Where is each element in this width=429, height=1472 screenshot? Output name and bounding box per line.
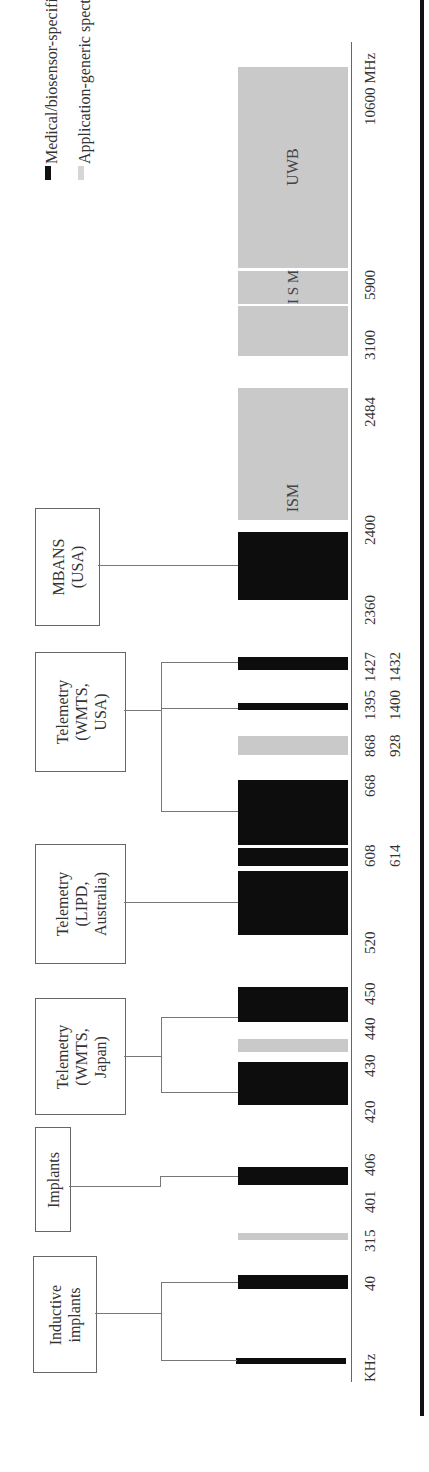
group-box-telemetry-lipd: Telemetry(LIPD,Australia) [35,844,126,964]
connector-wmts-usa-vertical [161,662,162,812]
band-401-406 [238,1167,348,1185]
connector-wmts-usa-stem [124,710,161,711]
connector-wmts-usa-1395 [161,708,238,709]
group-box-inductive-implants: Inductiveimplants [33,1256,97,1373]
connector-wmts-japan-vertical [161,1017,162,1092]
group-label-telemetry-lipd: Telemetry(LIPD,Australia) [52,872,109,937]
group-label-mbans: MBANS(USA) [49,539,87,596]
group-label-implants: Implants [44,1152,63,1208]
tick-420: 420 [362,1101,379,1124]
tick-608: 608 [362,845,379,868]
connector-mbans [98,565,238,566]
band-420-430 [238,1062,348,1105]
tick-1400: 1400 [387,690,404,720]
tick-315: 315 [362,1230,379,1253]
band-label-ism: ISM [284,484,302,512]
band-1395 [238,703,348,710]
connector-wmts-usa-608 [161,811,238,812]
group-box-implants: Implants [35,1127,71,1232]
band-ism-5900: I S M [238,271,348,304]
group-box-telemetry-wmts-japan: Telemetry(WMTS,Japan) [35,998,126,1115]
frequency-axis-line [351,42,352,1382]
connector-wmts-usa-1427 [161,662,238,663]
connector-implants-step [160,1176,161,1187]
tick-614: 614 [387,845,404,868]
legend-label-generic: Application-generic spectrum [76,0,94,164]
band-868 [238,736,348,755]
tick-868: 868 [362,735,379,758]
band-label-uwb: UWB [284,148,302,185]
band-mbans-2360 [238,532,348,600]
tick-40: 40 [362,1276,379,1291]
tick-2484: 2484 [362,397,379,427]
tick-928: 928 [387,735,404,758]
band-520-608 [238,871,348,935]
tick-10600-mhz: 10600 MHz [362,53,379,125]
connector-lipd [124,902,238,903]
tick-2400: 2400 [362,515,379,545]
band-3100 [238,306,348,356]
legend-label-medical: Medical/biosensor-specific spectrum [43,0,61,164]
tick-1427: 1427 [362,652,379,682]
band-khz [236,1358,346,1364]
legend-swatch-medical [45,166,51,180]
connector-inductive-vertical [161,1282,162,1361]
tick-2360: 2360 [362,595,379,625]
tick-520: 520 [362,932,379,955]
band-label-ism-stacked: I S M [285,270,302,304]
connector-wmts-japan-stem [124,1056,161,1057]
tick-430: 430 [362,1055,379,1078]
band-608-614 [238,848,348,866]
legend-swatch-generic [78,166,84,180]
tick-406: 406 [362,1154,379,1177]
band-ism-2400: ISM [238,388,348,520]
tick-668: 668 [362,775,379,798]
band-40 [238,1275,348,1289]
tick-5900: 5900 [362,270,379,300]
connector-implants-stem [69,1186,160,1187]
tick-3100: 3100 [362,330,379,360]
group-label-inductive-implants: Inductiveimplants [46,1284,84,1344]
band-1427 [238,657,348,670]
group-label-telemetry-wmts-japan: Telemetry(WMTS,Japan) [52,1024,109,1089]
connector-wmts-japan-420 [161,1092,238,1093]
band-315 [238,1233,348,1240]
tick-1395: 1395 [362,690,379,720]
connector-inductive-40 [161,1282,238,1283]
tick-440: 440 [362,1018,379,1041]
band-440-450 [238,987,348,1022]
connector-implants-bar [160,1176,238,1177]
tick-khz: KHz [362,1354,379,1382]
connector-inductive-khz [161,1360,237,1361]
tick-450: 450 [362,983,379,1006]
group-box-mbans: MBANS(USA) [35,508,100,626]
group-label-telemetry-wmts-usa: Telemetry(WMTS,USA) [52,680,109,745]
group-box-telemetry-wmts-usa: Telemetry(WMTS,USA) [35,652,126,772]
tick-401: 401 [362,1191,379,1214]
outer-border-line [420,0,424,1416]
band-614-668 [238,780,348,845]
connector-wmts-japan-440 [161,1017,238,1018]
band-uwb: UWB [238,67,348,268]
band-430-440 [238,1039,348,1052]
tick-1432: 1432 [387,652,404,682]
connector-inductive-stem [95,1313,161,1314]
